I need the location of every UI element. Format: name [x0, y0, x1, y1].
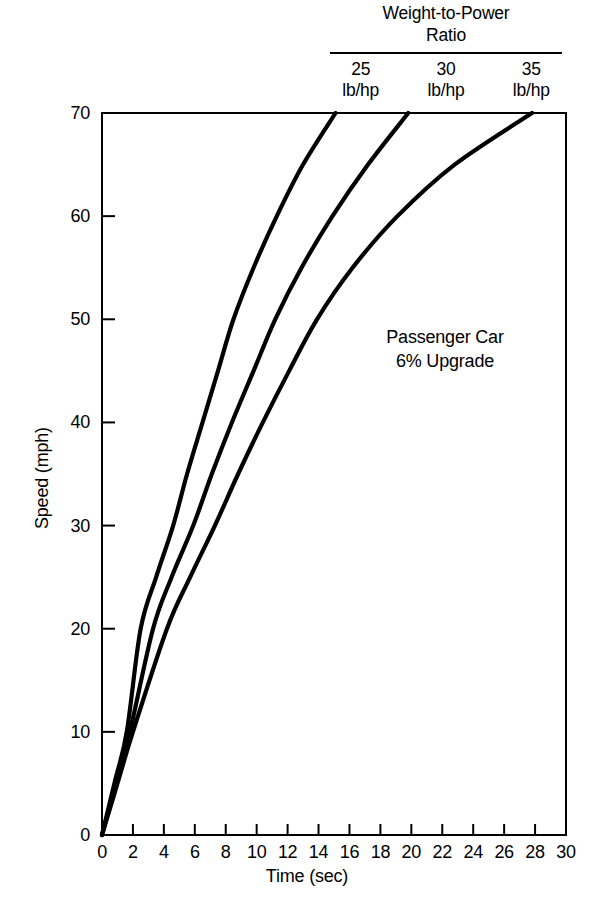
x-tick-label: 24 — [463, 842, 482, 863]
axes-group — [102, 113, 566, 835]
x-tick-label: 16 — [340, 842, 359, 863]
y-tick-label: 50 — [71, 309, 90, 330]
y-tick-label: 0 — [80, 825, 90, 846]
series-curve-35-lb-hp — [102, 113, 532, 835]
y-tick-label: 40 — [71, 412, 90, 433]
acceleration-chart-figure: Weight-to-Power Ratio 25 lb/hp 30 lb/hp … — [0, 0, 614, 901]
x-tick-label: 12 — [278, 842, 297, 863]
y-tick-label: 20 — [71, 618, 90, 639]
y-tick-label: 30 — [71, 515, 90, 536]
x-tick-label: 10 — [247, 842, 266, 863]
x-tick-label: 8 — [221, 842, 231, 863]
x-tick-label: 6 — [190, 842, 200, 863]
x-tick-label: 18 — [371, 842, 390, 863]
x-tick-label: 14 — [309, 842, 328, 863]
x-tick-label: 30 — [556, 842, 575, 863]
x-tick-label: 2 — [128, 842, 138, 863]
curves-group — [102, 113, 532, 835]
x-tick-label: 4 — [159, 842, 169, 863]
y-tick-label: 10 — [71, 721, 90, 742]
x-axis-title: Time (sec) — [0, 866, 614, 887]
x-tick-label: 26 — [494, 842, 513, 863]
y-axis-title: Speed (mph) — [32, 427, 53, 529]
plot-svg — [0, 0, 614, 901]
chart-annotation: Passenger Car 6% Upgrade — [345, 325, 545, 373]
x-tick-label: 22 — [433, 842, 452, 863]
x-tick-label: 0 — [97, 842, 107, 863]
y-tick-label: 70 — [71, 103, 90, 124]
plot-frame — [102, 113, 566, 835]
y-tick-label: 60 — [71, 206, 90, 227]
x-tick-label: 28 — [525, 842, 544, 863]
x-tick-label: 20 — [402, 842, 421, 863]
series-curve-30-lb-hp — [102, 113, 408, 835]
series-curve-25-lb-hp — [102, 113, 336, 835]
plot-area: 0246810121416182022242628300102030405060… — [0, 0, 614, 901]
